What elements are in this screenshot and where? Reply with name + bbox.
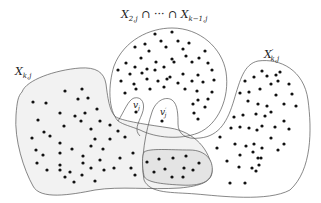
label-v-j: vj <box>133 100 140 112</box>
vertex-v-j-prime <box>160 119 163 122</box>
label-v-j-prime: v′j <box>160 106 167 119</box>
set-diagram: X2,j ∩ ··· ∩ Xk−1,j Xk,j X′k,j vj v′j <box>0 0 321 203</box>
label-x-k-j: Xk,j <box>14 65 32 80</box>
label-x-k-j-prime: X′k,j <box>263 48 280 63</box>
label-intersection: X2,j ∩ ··· ∩ Xk−1,j <box>120 8 208 23</box>
region-overlap-lobe <box>143 150 213 186</box>
